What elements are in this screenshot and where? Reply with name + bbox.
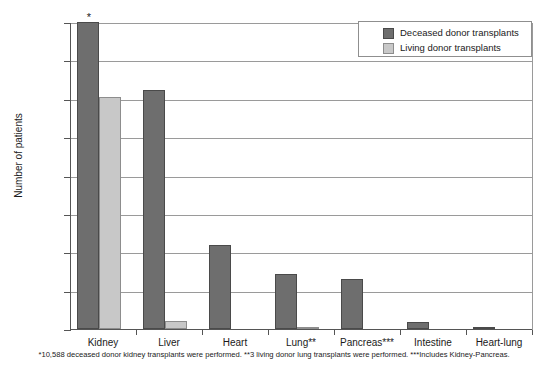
x-axis-category-label: Heart [202,337,268,348]
y-axis-tick-mark [64,177,71,178]
legend-label-living: Living donor transplants [400,43,501,53]
gridline [71,61,533,62]
plot-area: * [70,23,532,330]
bar-deceased: * [77,22,99,329]
x-axis-tick-mark [400,330,401,335]
legend-swatch-deceased-icon [383,28,394,39]
y-axis-title: Number of patients [13,76,24,236]
gridline [71,138,533,139]
bar-deceased [407,322,429,329]
bar-deceased [143,90,165,329]
x-axis-category-label: Heart-lung [466,337,532,348]
x-axis-category-label: Liver [136,337,202,348]
y-axis-tick-mark [64,215,71,216]
legend-label-deceased: Deceased donor transplants [400,28,519,38]
y-axis-tick-mark [64,23,71,24]
y-axis-tick-mark [64,61,71,62]
y-axis-tick-mark [64,253,71,254]
legend: Deceased donor transplants Living donor … [358,21,532,57]
bar-deceased [275,274,297,329]
x-axis-tick-mark [532,330,533,335]
chart-footnote: *10,588 deceased donor kidney transplant… [0,350,548,359]
x-axis-tick-mark [202,330,203,335]
bar-living [297,327,319,329]
bar-deceased [473,327,495,329]
x-axis-category-label: Pancreas*** [334,337,400,348]
x-axis-category-label: Kidney [70,337,136,348]
bar-living [165,321,187,329]
gridline [71,177,533,178]
bar-truncation-asterisk: * [78,12,100,23]
bar-deceased [341,279,363,329]
x-axis-tick-mark [136,330,137,335]
gridline [71,253,533,254]
gridline [71,100,533,101]
bar-deceased [209,245,231,329]
plot-right-edge [532,23,533,330]
x-axis-category-label: Lung** [268,337,334,348]
legend-item-living: Living donor transplants [383,41,531,55]
y-axis-tick-mark [64,138,71,139]
y-axis-tick-mark [64,330,71,331]
x-axis-tick-mark [334,330,335,335]
bar-chart: Number of patients * Deceased donor tran… [0,0,548,372]
legend-swatch-living-icon [383,43,394,54]
x-axis-tick-mark [268,330,269,335]
gridline [71,292,533,293]
gridline [71,215,533,216]
y-axis-tick-mark [64,292,71,293]
x-axis-tick-mark [466,330,467,335]
legend-item-deceased: Deceased donor transplants [383,26,531,40]
y-axis-tick-mark [64,100,71,101]
bar-living [99,97,121,329]
x-axis-category-label: Intestine [400,337,466,348]
